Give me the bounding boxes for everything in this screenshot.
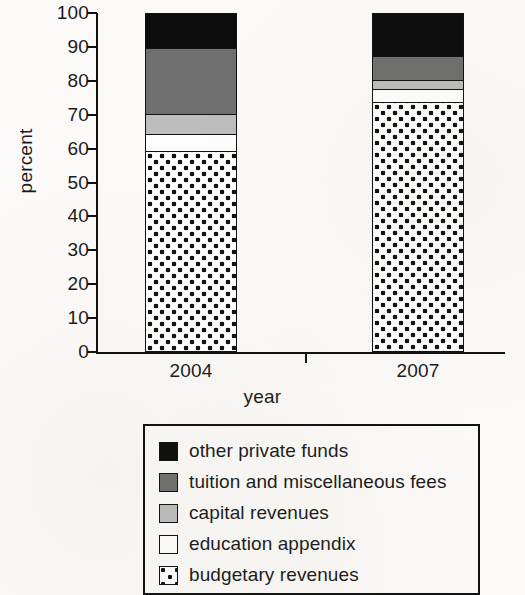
y-tick-label-40: 40 — [41, 206, 89, 225]
bar-segment-tuition-and-miscellaneous-fees[interactable] — [146, 48, 236, 114]
light-gray-swatch-icon — [159, 504, 178, 523]
y-axis-ticks: 1009080706050403020100 — [37, 0, 89, 415]
y-tick-mark-70 — [87, 114, 97, 116]
legend-label: other private funds — [189, 440, 348, 462]
bar-segment-budgetary-revenues[interactable] — [146, 151, 236, 352]
bar-segment-capital-revenues[interactable] — [373, 80, 463, 88]
y-tick-label-100: 100 — [41, 3, 89, 22]
legend-item-other-private-funds[interactable]: other private funds — [159, 438, 348, 464]
y-tick-mark-30 — [87, 249, 97, 251]
x-axis-title: year — [0, 386, 525, 408]
y-tick-label-20: 20 — [41, 274, 89, 293]
bar-segment-other-private-funds[interactable] — [373, 14, 463, 56]
dotted-swatch-icon — [159, 566, 178, 585]
black-swatch-icon — [159, 442, 178, 461]
x-axis-center-tick — [305, 354, 307, 363]
bar-segment-education-appendix[interactable] — [373, 89, 463, 103]
y-tick-label-90: 90 — [41, 37, 89, 56]
y-tick-mark-100 — [87, 12, 97, 14]
bar-segment-education-appendix[interactable] — [146, 134, 236, 151]
legend: other private fundstuition and miscellan… — [143, 424, 480, 595]
y-tick-label-10: 10 — [41, 308, 89, 327]
y-tick-mark-50 — [87, 182, 97, 184]
dark-gray-swatch-icon — [159, 473, 178, 492]
y-tick-mark-60 — [87, 148, 97, 150]
y-tick-mark-0 — [87, 351, 97, 353]
y-tick-label-80: 80 — [41, 71, 89, 90]
legend-item-budgetary-revenues[interactable]: budgetary revenues — [159, 562, 359, 588]
legend-item-tuition-and-miscellaneous-fees[interactable]: tuition and miscellaneous fees — [159, 469, 447, 495]
y-tick-mark-80 — [87, 80, 97, 82]
stacked-bar-chart: percent 1009080706050403020100 20042007 … — [0, 0, 525, 595]
legend-label: education appendix — [189, 533, 356, 555]
bar-2007[interactable] — [372, 13, 464, 352]
bar-segment-budgetary-revenues[interactable] — [373, 102, 463, 352]
bar-2004[interactable] — [145, 13, 237, 352]
y-tick-label-30: 30 — [41, 240, 89, 259]
plot-area: percent 1009080706050403020100 20042007 … — [0, 0, 525, 415]
y-tick-label-60: 60 — [41, 139, 89, 158]
bar-segment-tuition-and-miscellaneous-fees[interactable] — [373, 56, 463, 80]
legend-label: tuition and miscellaneous fees — [189, 471, 447, 493]
white-swatch-icon — [159, 535, 178, 554]
y-tick-label-50: 50 — [41, 173, 89, 192]
legend-item-education-appendix[interactable]: education appendix — [159, 531, 356, 557]
y-tick-mark-10 — [87, 317, 97, 319]
legend-label: capital revenues — [189, 502, 329, 524]
y-tick-mark-20 — [87, 283, 97, 285]
y-tick-mark-40 — [87, 215, 97, 217]
bar-segment-other-private-funds[interactable] — [146, 14, 236, 48]
y-axis-line — [96, 13, 98, 354]
y-axis-title: percent — [15, 91, 37, 231]
legend-label: budgetary revenues — [189, 564, 359, 586]
y-tick-label-70: 70 — [41, 105, 89, 124]
y-tick-label-0: 0 — [41, 342, 89, 361]
bar-segment-capital-revenues[interactable] — [146, 114, 236, 134]
x-tick-label-2007: 2007 — [358, 360, 478, 382]
y-tick-mark-90 — [87, 46, 97, 48]
x-tick-label-2004: 2004 — [131, 360, 251, 382]
x-axis-line — [96, 352, 505, 354]
legend-item-capital-revenues[interactable]: capital revenues — [159, 500, 329, 526]
